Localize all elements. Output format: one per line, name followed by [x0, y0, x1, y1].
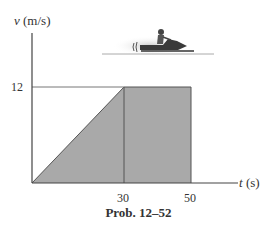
figure-caption: Prob. 12–52: [0, 205, 277, 221]
snowmobile-icon: [102, 29, 214, 56]
x-tick-30: 30: [117, 191, 129, 206]
chart-canvas: [0, 0, 277, 229]
x-axis-label: t (s): [239, 175, 260, 191]
y-axis-label: v (m/s): [14, 13, 50, 29]
y-tick-12: 12: [11, 80, 23, 95]
x-tick-50: 50: [184, 191, 196, 206]
velocity-area: [32, 87, 191, 183]
